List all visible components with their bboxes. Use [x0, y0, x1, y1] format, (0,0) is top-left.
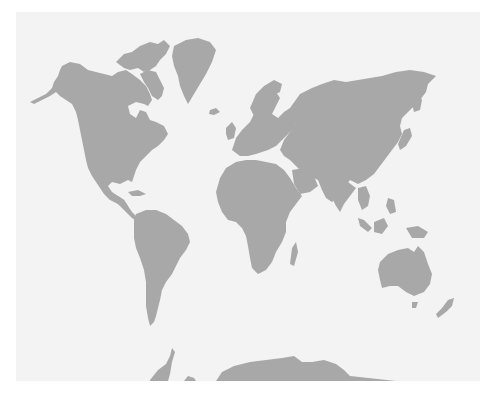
- greenland: [172, 38, 216, 104]
- cuba: [128, 190, 146, 196]
- south-america: [134, 210, 190, 326]
- southeast-asia: [358, 186, 370, 210]
- map-title: [0, 0, 496, 5]
- africa: [216, 160, 302, 274]
- arctic-islands: [116, 40, 170, 72]
- australia: [378, 246, 432, 296]
- antarctic-island: [184, 376, 196, 381]
- sumatra: [358, 218, 372, 232]
- new-guinea: [406, 226, 428, 238]
- antarctica: [216, 356, 396, 381]
- philippines: [386, 198, 396, 214]
- madagascar: [290, 242, 298, 266]
- iceland: [209, 108, 220, 115]
- antarctic-peninsula: [150, 348, 175, 381]
- india: [328, 180, 356, 212]
- britain: [226, 122, 236, 140]
- world-map-svg: [16, 12, 480, 381]
- borneo: [374, 218, 388, 234]
- tasmania: [412, 302, 418, 308]
- new-zealand: [436, 298, 454, 318]
- world-map[interactable]: [16, 12, 480, 381]
